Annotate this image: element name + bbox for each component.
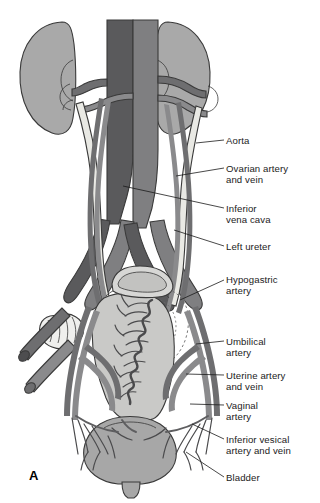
label-hypogastric-artery: Hypogastric artery	[226, 274, 278, 297]
label-vaginal-artery: Vaginal artery	[226, 400, 258, 423]
label-bladder: Bladder	[226, 472, 260, 483]
panel-letter: A	[29, 468, 38, 483]
label-left-ureter: Left ureter	[226, 241, 271, 252]
urethra	[122, 482, 140, 498]
label-inferior-vena-cava: Inferior vena cava	[226, 203, 271, 226]
label-inferior-vesical: Inferior vesical artery and vein	[226, 434, 291, 457]
label-ovarian-vessels: Ovarian artery and vein	[226, 163, 288, 186]
label-aorta: Aorta	[226, 135, 249, 146]
label-umbilical-artery: Umbilical artery	[226, 336, 266, 359]
aorta	[133, 20, 158, 228]
label-uterine-vessels: Uterine artery and vein	[226, 370, 286, 393]
